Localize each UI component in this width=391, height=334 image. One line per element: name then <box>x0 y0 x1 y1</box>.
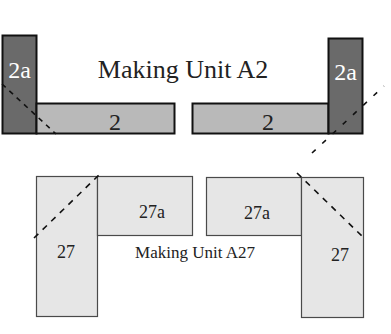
piece-2a-left <box>3 36 37 134</box>
label-2a-right: 2a <box>334 59 357 85</box>
label-2a-left: 2a <box>8 57 31 83</box>
unit-a27-title: Making Unit A27 <box>135 243 255 262</box>
unit-a2-title: Making Unit A2 <box>98 55 268 84</box>
unit-a27: 27 27a Making Unit A27 27a 27 <box>34 172 365 318</box>
piece-2a-right <box>329 39 363 134</box>
label-2-right: 2 <box>262 109 274 135</box>
label-27-right: 27 <box>331 245 349 265</box>
unit-a2: 2a 2 Making Unit A2 2a 2 <box>2 36 384 154</box>
quilt-diagram: 2a 2 Making Unit A2 2a 2 27 27a Making U… <box>0 0 391 334</box>
unit-a2-left: 2a 2 <box>2 36 175 136</box>
piece-2-right <box>193 104 329 134</box>
label-27-left: 27 <box>57 242 75 262</box>
label-27a-left: 27a <box>139 202 165 222</box>
label-2-left: 2 <box>109 109 121 135</box>
piece-2-left <box>37 104 175 134</box>
label-27a-right: 27a <box>244 203 270 223</box>
